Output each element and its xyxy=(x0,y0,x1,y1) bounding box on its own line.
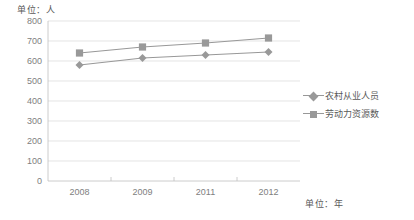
y-axis-tick-label: 0 xyxy=(37,176,42,186)
y-axis-tick-label: 500 xyxy=(27,76,42,86)
gridlines xyxy=(48,21,300,161)
diamond-marker-icon xyxy=(76,61,84,69)
square-marker-icon xyxy=(202,39,209,46)
square-marker-icon xyxy=(139,43,146,50)
legend-item-1[interactable]: 劳动力资源数 xyxy=(303,106,414,121)
square-marker-icon xyxy=(76,49,83,56)
x-axis-tick-label: 2008 xyxy=(69,187,89,197)
x-axis-tick-label: 2009 xyxy=(132,187,152,197)
chart-legend: 农村从业人员 劳动力资源数 xyxy=(303,88,414,124)
y-axis-tick-label: 300 xyxy=(27,116,42,126)
series-line-0 xyxy=(80,52,269,65)
y-axis-tick-label: 800 xyxy=(27,16,42,26)
x-axis-tick-label: 2012 xyxy=(258,187,278,197)
y-axis-tick-label: 400 xyxy=(27,96,42,106)
legend-item-label: 农村从业人员 xyxy=(325,89,379,102)
x-axis-tick-label: 2011 xyxy=(196,187,215,197)
legend-item-0[interactable]: 农村从业人员 xyxy=(303,88,414,103)
y-axis-tick-label: 100 xyxy=(27,156,42,166)
legend-item-label: 劳动力资源数 xyxy=(325,107,379,120)
chart-container: 单位：人 0100200300400500600700800 200820092… xyxy=(0,0,414,220)
data-series xyxy=(76,34,273,69)
x-axis-tick-labels: 2008200920112012 xyxy=(69,187,278,197)
x-axis-unit-label: 单位：年 xyxy=(305,197,343,210)
diamond-marker-icon xyxy=(303,90,324,102)
series-line-1 xyxy=(80,38,269,53)
square-marker-icon xyxy=(265,34,272,41)
y-axis-tick-label: 600 xyxy=(27,56,42,66)
y-axis-tick-label: 200 xyxy=(27,136,42,146)
square-marker-icon xyxy=(303,108,324,120)
x-axis-tick-marks xyxy=(111,177,237,181)
y-axis-tick-label: 700 xyxy=(27,36,42,46)
diamond-marker-icon xyxy=(202,51,210,59)
y-axis-tick-labels: 0100200300400500600700800 xyxy=(27,16,42,186)
diamond-marker-icon xyxy=(265,48,273,56)
